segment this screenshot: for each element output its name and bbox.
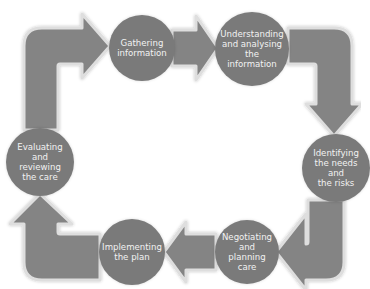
- arrow-identifying-to-negotiating: [276, 200, 344, 289]
- arrow-negotiating-to-implementing: [164, 222, 216, 282]
- node-label-line: Gathering: [115, 38, 169, 48]
- node-label-line: and reviewing: [8, 152, 72, 172]
- node-label-line: and analysing: [217, 39, 287, 49]
- node-label-line: the care: [8, 172, 72, 182]
- node-understanding-and-analysing: Understanding and analysing the informat…: [215, 12, 289, 86]
- node-label-line: Understanding: [217, 29, 287, 39]
- node-label-line: the plan: [100, 252, 164, 262]
- node-gathering-information: Gathering information: [109, 15, 175, 81]
- node-label-line: information: [115, 48, 169, 58]
- node-evaluating-and-reviewing: Evaluating and reviewing the care: [6, 128, 74, 196]
- arrow-gathering-to-understanding: [172, 16, 218, 80]
- node-label-line: the information: [217, 49, 287, 69]
- node-label-line: Implementing: [100, 242, 164, 252]
- arrow-understanding-to-identifying: [288, 28, 361, 136]
- node-label-line: care: [217, 262, 277, 272]
- node-label-line: the needs and: [304, 158, 368, 178]
- node-implementing-the-plan: Implementing the plan: [99, 219, 165, 285]
- node-identifying-needs-and-risks: Identifying the needs and the risks: [302, 134, 370, 202]
- node-negotiating-and-planning: Negotiating and planning care: [215, 220, 279, 284]
- node-label-line: Evaluating: [8, 142, 72, 152]
- node-label-line: the risks: [304, 178, 368, 188]
- node-label-line: Identifying: [304, 148, 368, 158]
- arrow-evaluating-to-gathering: [24, 14, 110, 130]
- node-label-line: and planning: [217, 242, 277, 262]
- arrow-implementing-to-evaluating: [10, 194, 100, 280]
- node-label-line: Negotiating: [217, 232, 277, 242]
